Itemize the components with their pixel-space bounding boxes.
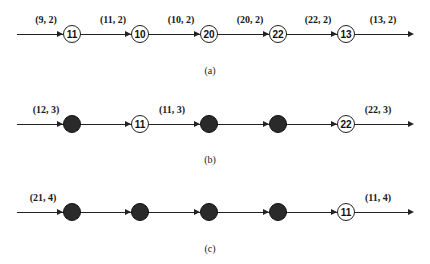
caption-b: (b) <box>204 154 216 165</box>
node: 13 <box>337 25 355 43</box>
edge-label: (22, 2) <box>305 14 332 25</box>
filled-node <box>269 203 287 221</box>
caption-a: (a) <box>204 65 215 76</box>
edge-label: (22, 3) <box>365 104 392 115</box>
filled-node <box>63 203 81 221</box>
node: 11 <box>131 115 149 133</box>
filled-node <box>269 115 287 133</box>
node: 11 <box>63 25 81 43</box>
input-label: (9, 2) <box>35 14 57 25</box>
caption-c: (c) <box>204 243 215 254</box>
edge-label: (13, 2) <box>370 14 397 25</box>
edge-label: (11, 4) <box>365 192 391 203</box>
node: 11 <box>337 203 355 221</box>
node: 22 <box>269 25 287 43</box>
pipeline-diagram: (9, 2) 11 (11, 2) 10 (10, 2) 20 (20, 2) … <box>0 0 430 264</box>
arrowhead-icon <box>408 121 414 127</box>
filled-node <box>131 203 149 221</box>
row-b: (12, 3) 11 (11, 3) 22 (22, 3) <box>0 104 430 144</box>
node: 10 <box>131 25 149 43</box>
edge-label: (11, 3) <box>159 104 185 115</box>
filled-node <box>200 203 218 221</box>
arrowhead-icon <box>408 31 414 37</box>
row-a: (9, 2) 11 (11, 2) 10 (10, 2) 20 (20, 2) … <box>0 14 430 54</box>
input-label: (21, 4) <box>30 192 57 203</box>
edge-label: (10, 2) <box>168 14 195 25</box>
edge-label: (11, 2) <box>100 14 126 25</box>
filled-node <box>63 115 81 133</box>
filled-node <box>200 115 218 133</box>
node: 22 <box>337 115 355 133</box>
row-c: (21, 4) 11 (11, 4) <box>0 192 430 232</box>
input-label: (12, 3) <box>33 104 60 115</box>
node: 20 <box>200 25 218 43</box>
arrowhead-icon <box>408 209 414 215</box>
edge-label: (20, 2) <box>237 14 264 25</box>
